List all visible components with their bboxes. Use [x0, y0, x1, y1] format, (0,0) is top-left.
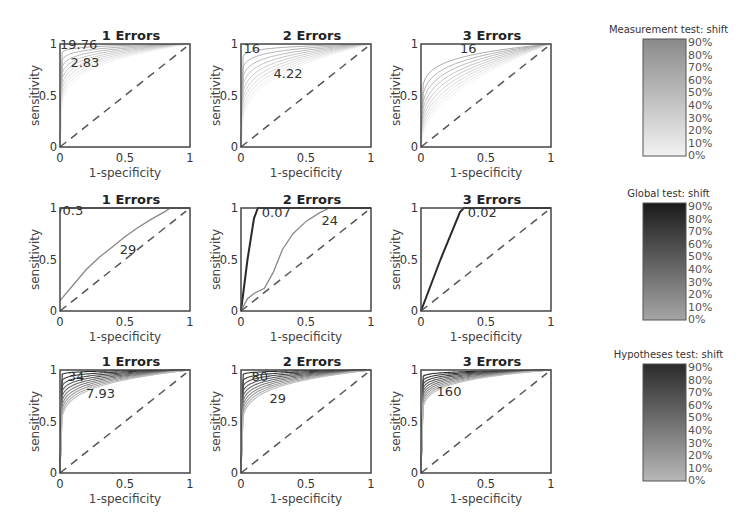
- y-axis-label: sensitivity: [389, 391, 403, 452]
- y-tick-label: 1: [50, 201, 57, 215]
- subplot-r0-c2: 3 Errors00.5100.511-specificitysensitivi…: [389, 28, 555, 180]
- subplot-r1-c1: 2 Errors00.5100.511-specificitysensitivi…: [209, 192, 375, 344]
- y-axis-label: sensitivity: [209, 391, 223, 452]
- curve-annotation: 16: [244, 41, 261, 56]
- x-axis-label: 1-specificity: [450, 166, 522, 180]
- colorbar-tick-label: 50%: [688, 411, 712, 424]
- colorbar-0: Measurement test: shift90%80%70%60%50%40…: [609, 24, 728, 162]
- colorbar-tick-label: 70%: [688, 61, 712, 74]
- colorbar-tick-label: 60%: [688, 74, 712, 87]
- colorbar-title: Global test: shift: [627, 188, 710, 199]
- colorbar-tick-label: 20%: [688, 288, 712, 301]
- colorbar-tick-label: 90%: [688, 36, 712, 49]
- y-axis-label: sensitivity: [389, 65, 403, 126]
- curve-annotation: 29: [120, 242, 137, 257]
- subplot-r1-c2: 3 Errors00.5100.511-specificitysensitivi…: [389, 192, 555, 344]
- colorbar-tick-label: 10%: [688, 462, 712, 475]
- roc-figure: 1 Errors00.5100.511-specificitysensitivi…: [0, 0, 743, 521]
- subplot-title: 3 Errors: [463, 354, 522, 369]
- y-tick-label: 1: [231, 201, 238, 215]
- colorbar-tick-label: 30%: [688, 437, 712, 450]
- colorbar-title: Hypotheses test: shift: [614, 349, 723, 360]
- x-axis-label: 1-specificity: [89, 330, 161, 344]
- colorbar-tick-label: 40%: [688, 263, 712, 276]
- colorbar-2: Hypotheses test: shift90%80%70%60%50%40%…: [614, 349, 723, 487]
- curve-annotation: 24: [322, 213, 339, 228]
- colorbar-tick-label: 30%: [688, 276, 712, 289]
- x-tick-label: 1: [186, 477, 193, 491]
- x-tick-label: 0.5: [477, 315, 495, 329]
- x-tick-label: 0: [417, 315, 424, 329]
- curve-annotation: 16: [460, 41, 477, 56]
- x-tick-label: 0.5: [477, 477, 495, 491]
- y-axis-label: sensitivity: [28, 229, 42, 290]
- colorbar-gradient: [643, 364, 686, 481]
- y-tick-label: 1: [411, 363, 418, 377]
- subplot-r0-c0: 1 Errors00.5100.511-specificitysensitivi…: [28, 28, 194, 180]
- x-tick-label: 0: [237, 151, 244, 165]
- x-tick-label: 1: [367, 477, 374, 491]
- y-tick-label: 1: [50, 363, 57, 377]
- subplot-title: 2 Errors: [283, 354, 342, 369]
- subplot-title: 2 Errors: [283, 28, 342, 43]
- x-tick-label: 0.5: [477, 151, 495, 165]
- colorbar-title: Measurement test: shift: [609, 24, 728, 35]
- colorbar-tick-label: 80%: [688, 213, 712, 226]
- subplot-title: 1 Errors: [102, 28, 161, 43]
- x-tick-label: 0.5: [297, 151, 315, 165]
- colorbar-tick-label: 0%: [688, 474, 705, 487]
- subplot-r2-c2: 3 Errors00.5100.511-specificitysensitivi…: [389, 354, 555, 506]
- x-axis-label: 1-specificity: [450, 492, 522, 506]
- subplot-title: 1 Errors: [102, 192, 161, 207]
- curve-annotation: 34: [68, 369, 85, 384]
- colorbar-tick-label: 0%: [688, 149, 705, 162]
- subplot-r1-c0: 1 Errors00.5100.511-specificitysensitivi…: [28, 192, 194, 344]
- x-tick-label: 0: [56, 315, 63, 329]
- colorbar-1: Global test: shift90%80%70%60%50%40%30%2…: [627, 188, 712, 326]
- x-tick-label: 1: [547, 151, 554, 165]
- subplot-r2-c0: 1 Errors00.5100.511-specificitysensitivi…: [28, 354, 194, 506]
- x-tick-label: 0.5: [116, 477, 134, 491]
- x-axis-label: 1-specificity: [270, 166, 342, 180]
- colorbar-tick-label: 10%: [688, 301, 712, 314]
- x-tick-label: 1: [186, 151, 193, 165]
- colorbar-tick-label: 20%: [688, 449, 712, 462]
- x-axis-label: 1-specificity: [89, 166, 161, 180]
- x-axis-label: 1-specificity: [450, 330, 522, 344]
- x-axis-label: 1-specificity: [89, 492, 161, 506]
- curve-annotation: 4.22: [274, 66, 303, 81]
- y-tick-label: 1: [411, 201, 418, 215]
- curve-annotation: 19.76: [60, 37, 97, 52]
- colorbar-tick-label: 20%: [688, 124, 712, 137]
- x-tick-label: 0.5: [297, 477, 315, 491]
- curve-annotation: 0.02: [468, 205, 497, 220]
- subplot-r0-c1: 2 Errors00.5100.511-specificitysensitivi…: [209, 28, 375, 180]
- y-tick-label: 1: [50, 37, 57, 51]
- colorbar-tick-label: 60%: [688, 399, 712, 412]
- curve-annotation: 80: [251, 369, 268, 384]
- curve-annotation: 0.07: [262, 205, 291, 220]
- y-axis-label: sensitivity: [28, 65, 42, 126]
- x-tick-label: 0: [237, 477, 244, 491]
- x-tick-label: 1: [367, 151, 374, 165]
- y-axis-label: sensitivity: [389, 229, 403, 290]
- x-tick-label: 1: [186, 315, 193, 329]
- y-tick-label: 1: [231, 363, 238, 377]
- curve-annotation: 29: [270, 391, 287, 406]
- colorbar-tick-label: 70%: [688, 225, 712, 238]
- colorbar-gradient: [643, 203, 686, 320]
- x-tick-label: 0: [56, 477, 63, 491]
- colorbar-tick-label: 90%: [688, 361, 712, 374]
- colorbar-tick-label: 80%: [688, 374, 712, 387]
- x-axis-label: 1-specificity: [270, 492, 342, 506]
- colorbar-tick-label: 30%: [688, 112, 712, 125]
- y-tick-label: 1: [231, 37, 238, 51]
- colorbar-tick-label: 0%: [688, 313, 705, 326]
- curve-annotation: 2.83: [70, 55, 99, 70]
- curve-annotation: 7.93: [86, 386, 115, 401]
- y-tick-label: 1: [411, 37, 418, 51]
- x-tick-label: 0: [417, 477, 424, 491]
- x-tick-label: 0.5: [297, 315, 315, 329]
- colorbar-tick-label: 60%: [688, 238, 712, 251]
- x-tick-label: 0.5: [116, 151, 134, 165]
